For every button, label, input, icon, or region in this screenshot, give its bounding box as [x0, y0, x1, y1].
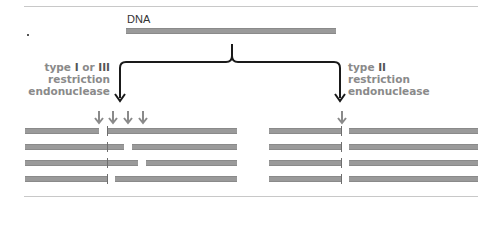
brace-icon	[120, 44, 232, 98]
fragment	[25, 144, 124, 150]
fragment	[269, 176, 341, 182]
fragment	[146, 160, 237, 166]
fragment	[349, 144, 478, 150]
fragment	[349, 128, 478, 134]
type-i-iii-label: type I or III restriction endonuclease	[28, 61, 110, 97]
fragment	[25, 176, 107, 182]
fragment	[132, 144, 237, 150]
fragment	[269, 144, 341, 150]
site-mark	[341, 158, 342, 168]
type-ii-label: type II restriction endonuclease	[348, 61, 430, 97]
fragment	[269, 128, 341, 134]
site-mark	[107, 142, 108, 152]
site-mark	[107, 174, 108, 184]
cut-arrow-right	[338, 111, 346, 123]
bottom-rule	[24, 196, 478, 197]
fragment	[349, 176, 478, 182]
fragment	[349, 160, 478, 166]
fragment	[25, 160, 138, 166]
cut-arrows-left	[95, 111, 147, 123]
site-mark	[341, 142, 342, 152]
site-mark	[341, 174, 342, 184]
site-mark	[341, 126, 342, 136]
fragment	[25, 128, 99, 134]
fragment	[115, 176, 237, 182]
site-mark	[107, 158, 108, 168]
fragment	[269, 160, 341, 166]
fragment	[107, 128, 237, 134]
site-mark	[107, 126, 108, 136]
